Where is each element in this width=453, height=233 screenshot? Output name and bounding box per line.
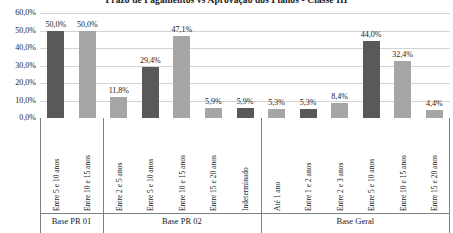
category-label: Entre 5 e 10 anos — [367, 121, 376, 211]
category-label: Entre 2 e 3 anos — [336, 121, 345, 211]
y-axis-tick-label: 10,0% — [0, 96, 36, 105]
category-label: Entre 10 e 15 anos — [178, 121, 187, 211]
bar-value-label: 47,1% — [162, 25, 202, 34]
category-label: Até 1 ano — [273, 121, 282, 211]
chart-container: Prazo de Pagamentos vs Aprovação dos Pla… — [0, 0, 453, 233]
y-axis-tick-label: 20,0% — [0, 78, 36, 87]
group-separator — [103, 118, 104, 233]
y-axis-labels: 60,0%50,0%40,0%30,0%20,0%10,0%0,0% — [0, 13, 38, 118]
y-axis-tick-label: 50,0% — [0, 26, 36, 35]
group-label: Base Geral — [261, 216, 450, 226]
chart-title: Prazo de Pagamentos vs Aprovação dos Pla… — [0, 0, 453, 5]
bar — [79, 31, 96, 119]
group-axis-edge — [449, 118, 450, 233]
bar — [394, 61, 411, 118]
category-label: Entre 5 e 10 anos — [52, 121, 61, 211]
group-axis: Base PR 01Base PR 02Base Geral — [40, 213, 450, 233]
bar-value-label: 4,4% — [414, 99, 453, 108]
bar-value-label: 29,4% — [130, 56, 170, 65]
category-label: Entre 10 e 15 anos — [83, 121, 92, 211]
bar — [426, 110, 443, 118]
bar-value-label: 8,4% — [320, 92, 360, 101]
group-label: Base PR 01 — [40, 216, 103, 226]
plot-area: 50,0%50,0%11,8%29,4%47,1%5,9%5,9%5,3%5,3… — [40, 13, 450, 118]
category-label: Entre 5 e 10 anos — [146, 121, 155, 211]
category-label: Entre 2 e 5 anos — [115, 121, 124, 211]
bar-series: 50,0%50,0%11,8%29,4%47,1%5,9%5,9%5,3%5,3… — [40, 13, 450, 118]
category-label: Entre 15 e 20 anos — [430, 121, 439, 211]
y-axis-tick-label: 30,0% — [0, 61, 36, 70]
bar — [268, 109, 285, 118]
category-label: Entre 10 e 15 anos — [399, 121, 408, 211]
bar-value-label: 44,0% — [351, 30, 391, 39]
bar — [237, 108, 254, 118]
group-axis-edge — [40, 118, 41, 233]
bar — [142, 67, 159, 118]
y-axis-tick-label: 60,0% — [0, 8, 36, 17]
y-axis-tick-label: 0,0% — [0, 113, 36, 122]
bar — [110, 97, 127, 118]
bar-value-label: 50,0% — [67, 20, 107, 29]
group-separator — [261, 118, 262, 233]
bar — [173, 36, 190, 118]
group-label: Base PR 02 — [103, 216, 261, 226]
bar-value-label: 11,8% — [99, 86, 139, 95]
y-axis-tick-label: 40,0% — [0, 43, 36, 52]
category-axis: Entre 5 e 10 anosEntre 10 e 15 anosEntre… — [40, 118, 450, 214]
category-label: Entre 15 e 20 anos — [209, 121, 218, 211]
bar-value-label: 32,4% — [383, 50, 423, 59]
category-label: Entre 1 e 2 anos — [304, 121, 313, 211]
bar — [205, 108, 222, 118]
bar — [47, 31, 64, 119]
bar — [363, 41, 380, 118]
bar — [331, 103, 348, 118]
bar — [300, 109, 317, 118]
category-label: Indeterminado — [241, 121, 250, 211]
